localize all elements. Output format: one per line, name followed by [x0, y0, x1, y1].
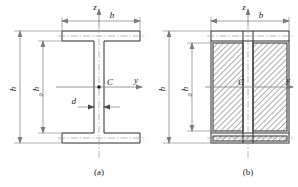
- hatched-strip-bottom-b: [213, 136, 287, 141]
- dimension-h-label-a: h: [8, 86, 18, 91]
- axis-z-label-a: z: [92, 2, 97, 12]
- axis-z-label-b: z: [241, 2, 246, 12]
- axis-y-label-a: y: [133, 75, 138, 85]
- engineering-diagram: z y C b h h 0 d (a): [0, 0, 298, 187]
- centroid-point-a: [97, 85, 100, 88]
- dimension-b-label-b: b: [259, 10, 264, 20]
- panel-b-caption: (b): [243, 167, 254, 177]
- dimension-h0-base-label-a: h: [31, 86, 41, 91]
- figure-container: z y C b h h 0 d (a): [0, 0, 298, 187]
- centroid-label-b: C: [238, 77, 245, 87]
- dimension-h-label-b: h: [157, 86, 167, 91]
- dimension-h0-base-label-b: h: [180, 86, 190, 91]
- dimension-b-label-a: b: [110, 10, 115, 20]
- axis-y-label-b: y: [285, 75, 290, 85]
- dimension-h0-sub-label-a: 0: [38, 94, 44, 97]
- centroid-label-a: C: [107, 77, 114, 87]
- dimension-d-label-a: d: [72, 96, 77, 106]
- panel-a-caption: (a): [94, 167, 104, 177]
- dimension-h0-sub-label-b: 0: [187, 94, 193, 97]
